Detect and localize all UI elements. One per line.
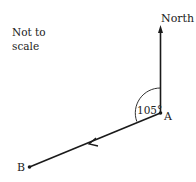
line-ab [30,113,161,167]
north-label: North [161,12,194,25]
note-line-2: scale [12,40,39,52]
diagram-svg: North A B 105° Not to scale [0,0,196,182]
point-b-label: B [17,161,25,174]
note-line-1: Not to [12,26,46,38]
bearing-diagram: North A B 105° Not to scale [0,0,196,182]
angle-label: 105° [137,104,162,116]
north-arrowhead-icon [158,25,163,33]
point-a-label: A [163,110,173,123]
point-b [28,165,32,169]
